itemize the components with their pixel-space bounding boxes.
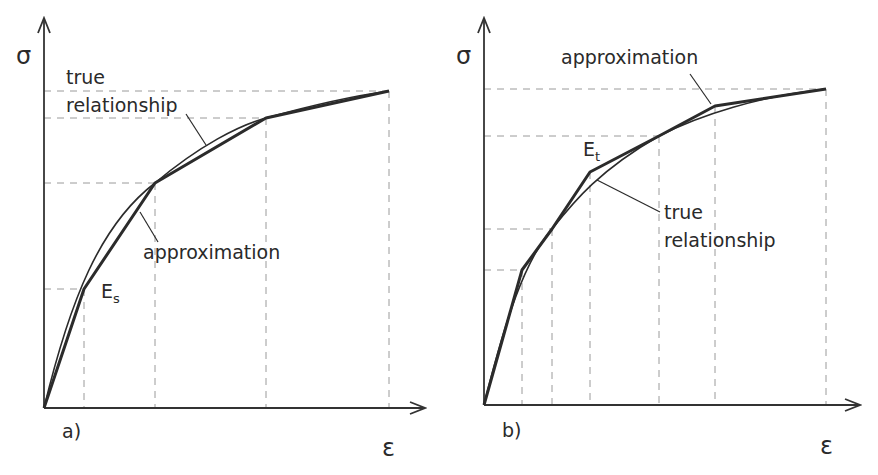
panel-b-true-label-2: relationship: [664, 231, 776, 250]
panel-a-true-label-1: true: [66, 68, 105, 87]
panel-a-modulus-label: Es: [101, 282, 120, 305]
panel-b-true-leader: [597, 180, 660, 212]
panel-a-x-axis-label: ε: [382, 436, 395, 460]
panel-a-y-axis-label: σ: [16, 44, 31, 68]
panel-b-label: b): [502, 421, 521, 440]
panel-b-x-axis-label: ε: [820, 434, 833, 458]
panel-b-true-label-1: true: [664, 203, 703, 222]
panel-a-approx-label: approximation: [143, 243, 280, 262]
panel-b-y-axis-label: σ: [456, 44, 471, 68]
panel-a-true-label-2: relationship: [66, 96, 178, 115]
panel-b-approx-label: approximation: [561, 48, 698, 67]
panel-a-true-leader: [186, 114, 206, 145]
panel-a-label: a): [62, 422, 81, 441]
panel-b-modulus-label: Et: [583, 140, 600, 163]
